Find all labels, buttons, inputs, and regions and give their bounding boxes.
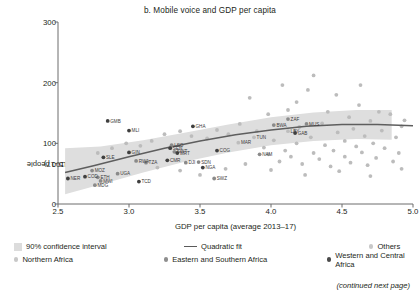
legend-label-western-central-africa: Western and Central Africa bbox=[335, 251, 414, 269]
svg-text:COD: COD bbox=[88, 174, 99, 179]
svg-text:MLI: MLI bbox=[132, 128, 140, 133]
svg-text:MDG: MDG bbox=[98, 183, 109, 188]
svg-text:BWA: BWA bbox=[276, 123, 287, 128]
legend-row-2: Northern Africa Eastern and Southern Afr… bbox=[14, 253, 414, 266]
svg-text:TCD: TCD bbox=[142, 179, 152, 184]
svg-text:MAR: MAR bbox=[241, 140, 252, 145]
others-dot-icon bbox=[369, 244, 373, 248]
svg-text:COG: COG bbox=[220, 148, 231, 153]
eastern-southern-africa-dot-icon bbox=[164, 257, 168, 261]
svg-text:TUN: TUN bbox=[257, 135, 266, 140]
legend-label-confidence-interval: 90% confidence interval bbox=[26, 242, 107, 251]
svg-text:SWZ: SWZ bbox=[217, 176, 227, 181]
svg-text:GMB: GMB bbox=[110, 119, 120, 124]
northern-africa-dot-icon bbox=[14, 257, 18, 261]
svg-text:SDN: SDN bbox=[201, 160, 211, 165]
continued-note: (continued next page) bbox=[337, 281, 410, 290]
figure-panel: b. Mobile voice and GDP per capita Subsc… bbox=[0, 0, 420, 298]
svg-text:NGA: NGA bbox=[205, 165, 216, 170]
legend-item-northern-africa: Northern Africa bbox=[14, 255, 164, 264]
svg-text:TZA: TZA bbox=[149, 160, 159, 165]
legend-item-western-central-africa: Western and Central Africa bbox=[327, 251, 414, 269]
legend-label-eastern-southern-africa: Eastern and Southern Africa bbox=[172, 255, 267, 264]
fit-line-swatch-icon bbox=[184, 246, 197, 247]
svg-text:ZAF: ZAF bbox=[291, 117, 300, 122]
legend-item-confidence-interval: 90% confidence interval bbox=[14, 242, 184, 251]
legend-label-quadratic-fit: Quadratic fit bbox=[201, 242, 242, 251]
svg-text:NER: NER bbox=[71, 176, 81, 181]
svg-text:DJI: DJI bbox=[188, 160, 195, 165]
svg-text:MRT: MRT bbox=[180, 151, 190, 156]
western-central-africa-dot-icon bbox=[327, 257, 331, 261]
legend-item-eastern-southern-africa: Eastern and Southern Africa bbox=[164, 255, 327, 264]
confidence-band-swatch-icon bbox=[14, 243, 22, 251]
svg-text:GAB: GAB bbox=[298, 131, 308, 136]
svg-text:MUS: MUS bbox=[309, 122, 319, 127]
svg-text:SLE: SLE bbox=[106, 155, 115, 160]
svg-text:GIN: GIN bbox=[132, 150, 140, 155]
svg-text:NAM: NAM bbox=[262, 152, 272, 157]
svg-text:CMR: CMR bbox=[170, 158, 181, 163]
chart-legend: 90% confidence interval Quadratic fit Ot… bbox=[14, 240, 414, 266]
legend-label-northern-africa: Northern Africa bbox=[22, 255, 73, 264]
svg-text:GHA: GHA bbox=[196, 124, 207, 129]
svg-text:MOZ: MOZ bbox=[95, 168, 105, 173]
svg-text:UGA: UGA bbox=[120, 171, 131, 176]
